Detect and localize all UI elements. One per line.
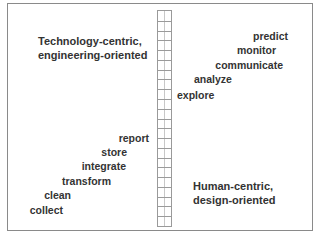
ladder-rung: [158, 89, 171, 90]
ladder-rung: [158, 21, 171, 22]
step-store: store: [101, 146, 127, 158]
tech-centric-heading: Technology-centric, engineering-oriented: [38, 34, 147, 62]
step-transform: transform: [62, 175, 111, 187]
ladder-rung: [158, 119, 171, 120]
ladder-rung: [158, 158, 171, 159]
ladder-rung: [158, 148, 171, 149]
ladder-rung: [158, 206, 171, 207]
ladder-rung: [158, 31, 171, 32]
ladder-rung: [158, 99, 171, 100]
ladder-rung: [158, 109, 171, 110]
ladder-rung: [158, 216, 171, 217]
step-analyze: analyze: [194, 73, 232, 85]
human-centric-heading: Human-centric, design-oriented: [193, 179, 273, 207]
ladder-rung: [158, 50, 171, 51]
heading-line-2: design-oriented: [193, 193, 273, 207]
step-predict: predict: [253, 30, 288, 42]
ladder-rung: [158, 40, 171, 41]
heading-line-1: Human-centric,: [193, 179, 273, 193]
step-clean: clean: [44, 189, 71, 201]
step-report: report: [119, 132, 149, 144]
ladder-rung: [158, 128, 171, 129]
ladder-rung: [158, 177, 171, 178]
ladder-rung: [158, 79, 171, 80]
step-communicate: communicate: [215, 59, 283, 71]
step-monitor: monitor: [237, 44, 276, 56]
ladder-rung: [158, 60, 171, 61]
ladder-rung: [158, 187, 171, 188]
ladder-rung: [158, 70, 171, 71]
ladder-rung: [158, 197, 171, 198]
heading-line-1: Technology-centric,: [38, 34, 147, 48]
ladder: [157, 10, 172, 227]
step-explore: explore: [177, 89, 214, 101]
heading-line-2: engineering-oriented: [38, 48, 147, 62]
ladder-rung: [158, 167, 171, 168]
ladder-rung: [158, 138, 171, 139]
step-integrate: integrate: [82, 160, 126, 172]
step-collect: collect: [30, 204, 63, 216]
